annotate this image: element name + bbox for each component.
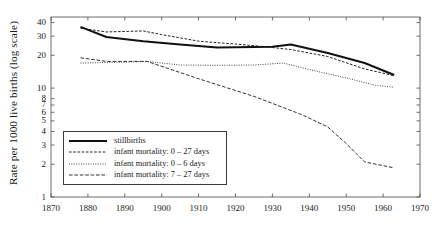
y-axis-tick-label: 40 bbox=[18, 17, 46, 27]
chart-legend: stillbirthsinfant mortality: 0 – 27 days… bbox=[63, 131, 227, 185]
x-axis-tick-label: 1940 bbox=[291, 203, 327, 213]
y-axis-tick-label: 5 bbox=[18, 115, 46, 125]
chart-figure: Rate per 1000 live births (log scale) 12… bbox=[0, 0, 438, 232]
series-line-0 bbox=[81, 27, 395, 75]
series-line-2 bbox=[81, 61, 395, 87]
y-axis-tick-label: 30 bbox=[18, 31, 46, 41]
legend-item-label: infant mortality: 0 – 6 days bbox=[114, 159, 205, 169]
x-axis-tick-label: 1880 bbox=[70, 203, 106, 213]
x-axis-tick-label: 1870 bbox=[33, 203, 69, 213]
x-axis-tick-label: 1970 bbox=[402, 203, 438, 213]
legend-line-swatch bbox=[68, 170, 108, 180]
x-axis-tick-label: 1920 bbox=[218, 203, 254, 213]
x-axis-tick-label: 1890 bbox=[107, 203, 143, 213]
legend-item-label: stillbirths bbox=[114, 136, 146, 146]
y-axis-tick-label: 2 bbox=[18, 159, 46, 169]
y-axis-tick-label: 8 bbox=[18, 93, 46, 103]
chart-plot-area bbox=[0, 0, 438, 232]
y-axis-tick-label: 10 bbox=[18, 83, 46, 93]
x-axis-tick-label: 1960 bbox=[365, 203, 401, 213]
series-line-1 bbox=[81, 28, 395, 76]
legend-item[interactable]: infant mortality: 7 – 27 days bbox=[68, 170, 221, 182]
x-axis-tick-label: 1910 bbox=[181, 203, 217, 213]
legend-item-label: infant mortality: 0 – 27 days bbox=[114, 147, 209, 157]
legend-line-swatch bbox=[68, 136, 108, 146]
y-axis-tick-label: 1 bbox=[18, 192, 46, 202]
legend-item[interactable]: infant mortality: 0 – 6 days bbox=[68, 158, 221, 170]
legend-line-swatch bbox=[68, 147, 108, 157]
legend-line-swatch bbox=[68, 159, 108, 169]
legend-item[interactable]: stillbirths bbox=[68, 135, 221, 147]
legend-item-label: infant mortality: 7 – 27 days bbox=[114, 170, 209, 180]
x-axis-tick-label: 1950 bbox=[328, 203, 364, 213]
x-axis-tick-label: 1930 bbox=[254, 203, 290, 213]
x-axis-tick-label: 1900 bbox=[144, 203, 180, 213]
y-axis-tick-label: 3 bbox=[18, 140, 46, 150]
y-axis-tick-label: 20 bbox=[18, 50, 46, 60]
legend-item[interactable]: infant mortality: 0 – 27 days bbox=[68, 147, 221, 159]
y-axis-tick-label: 4 bbox=[18, 126, 46, 136]
